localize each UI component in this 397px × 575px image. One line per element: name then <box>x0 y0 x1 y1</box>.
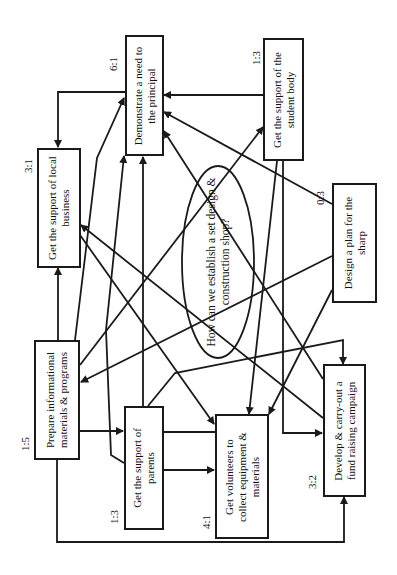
node-volunteers-label: Get volunteers to collect equipment & ma… <box>223 432 262 522</box>
ratio-fund-raising: 3:2 <box>306 475 318 489</box>
node-volunteers: Get volunteers to collect equipment & ma… <box>215 414 269 539</box>
ratio-parents: 1:3 <box>108 510 120 524</box>
node-fund-raising-label: Develop & carry-out a fund raising campa… <box>332 381 358 480</box>
node-fund-raising: Develop & carry-out a fund raising campa… <box>323 364 366 497</box>
node-student-body: Get the support of the student body <box>263 38 304 161</box>
node-design-plan: Design a plan for the sharp <box>332 183 377 303</box>
interrelationship-diagram: Demonstrate a need to the principal 6:1 … <box>0 0 397 575</box>
node-local-business-label: Get the support of local business <box>46 156 72 260</box>
node-local-business: Get the support of local business <box>37 148 81 268</box>
edge-parents-to-fund-raising <box>148 340 343 406</box>
ratio-volunteers: 4:1 <box>200 515 212 529</box>
node-parents-label: Get the support of parents <box>131 428 157 508</box>
ratio-design-plan: 0:3 <box>314 191 326 205</box>
edge-fund-raising-to-principal <box>164 131 323 379</box>
edge-design-plan-to-principal <box>164 112 332 204</box>
ratio-local-business: 3:1 <box>22 159 34 173</box>
central-question: How can we establish a set design & cons… <box>204 178 232 347</box>
node-design-plan-label: Design a plan for the sharp <box>342 197 368 289</box>
node-info-materials-label: Prepare informational materials & progra… <box>44 352 70 448</box>
ratio-info-materials: 1:5 <box>19 437 31 451</box>
ratio-student-body: 1:3 <box>250 51 262 65</box>
node-student-body-label: Get the support of the student body <box>271 52 297 148</box>
edge-parents-to-principal <box>106 156 124 463</box>
node-info-materials: Prepare informational materials & progra… <box>34 340 80 460</box>
edge-info-materials-to-fund-raising <box>57 460 344 542</box>
node-principal: Demonstrate a need to the principal <box>125 35 164 156</box>
node-principal-label: Demonstrate a need to the principal <box>132 46 158 145</box>
edge-local-business-to-volunteers <box>80 235 214 424</box>
node-parents: Get the support of parents <box>124 406 164 530</box>
ratio-principal: 6:1 <box>107 57 119 71</box>
